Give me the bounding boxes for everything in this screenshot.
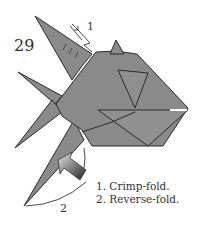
arrow-label-1: 1: [87, 20, 94, 33]
instruction-crimp-fold: 1. Crimp-fold.: [96, 180, 179, 193]
lower-left-fin: [15, 100, 62, 148]
step-number: 29: [14, 36, 34, 55]
upper-left-fin: [18, 72, 62, 104]
mouth-notch: [170, 109, 187, 111]
instruction-reverse-fold: 2. Reverse-fold.: [96, 193, 179, 206]
head-cap: [110, 40, 124, 54]
instructions: 1. Crimp-fold. 2. Reverse-fold.: [96, 180, 179, 206]
arrow-label-2: 2: [60, 202, 67, 215]
